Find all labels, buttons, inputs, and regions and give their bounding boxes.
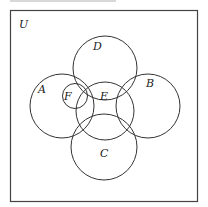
label-a: A [37, 83, 46, 96]
label-f: F [63, 90, 72, 103]
label-u: U [19, 18, 29, 31]
venn-diagram: U D A F E B C [0, 0, 208, 207]
label-c: C [100, 147, 109, 160]
universe-box [11, 11, 198, 202]
label-d: D [92, 40, 102, 53]
label-b: B [145, 77, 154, 90]
label-e: E [99, 90, 108, 103]
